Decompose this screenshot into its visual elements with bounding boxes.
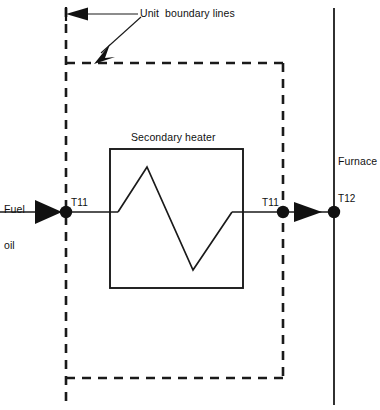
instrument-tag-t12-furnace: T12 <box>338 193 356 205</box>
callout-arrowhead-left-icon <box>66 8 88 21</box>
callout-arrowhead-diagonal-icon <box>94 44 115 64</box>
secondary-heater-box <box>110 149 243 288</box>
furnace-label: Furnace <box>338 155 377 167</box>
secondary-heater-label: Secondary heater <box>131 131 216 143</box>
fuel-oil-label-line-1: Fuel <box>4 203 25 215</box>
flow-arrow-inlet-icon <box>35 200 62 224</box>
callout-leaders-group <box>66 7 141 64</box>
unit-boundary-label: Unit boundary lines <box>140 7 235 19</box>
fuel-oil-stream-label: Fuel oil <box>4 179 25 276</box>
callout-leader-diagonal <box>101 17 141 53</box>
fuel-oil-label-line-2: oil <box>4 239 25 251</box>
diagram-canvas <box>0 0 380 410</box>
unit-boundary-group <box>66 8 283 401</box>
instrument-node-t12-furnace[interactable] <box>328 206 340 218</box>
heating-element-zigzag-icon <box>118 167 232 270</box>
instrument-tag-t11-outlet: T11 <box>262 197 279 209</box>
secondary-heater-group <box>110 149 243 288</box>
flow-arrow-outlet-icon <box>294 202 322 222</box>
instrument-tag-t11-inlet: T11 <box>71 197 88 209</box>
process-flow-diagram: Unit boundary lines Secondary heater Fue… <box>0 0 380 410</box>
